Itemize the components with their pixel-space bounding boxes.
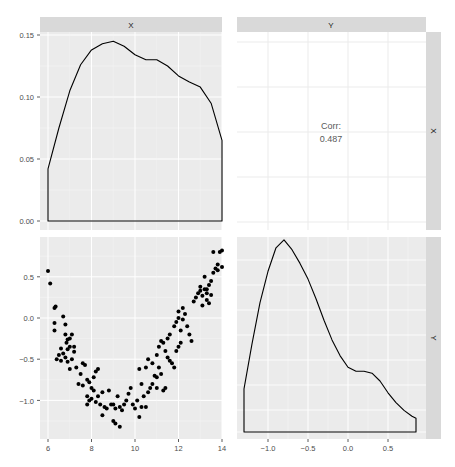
bl-xtick-12: 12 xyxy=(174,444,182,453)
scatter-point xyxy=(118,425,122,429)
scatter-point xyxy=(83,363,87,367)
scatter-point xyxy=(53,321,57,325)
scatter-point xyxy=(68,337,72,341)
scatter-point xyxy=(144,365,148,369)
scatter-point xyxy=(81,384,85,388)
scatter-point xyxy=(207,283,211,287)
scatter-point xyxy=(79,372,83,376)
scatter-point xyxy=(209,293,213,297)
tl-ytick-0.10: 0.10 xyxy=(19,93,34,102)
scatter-point xyxy=(150,382,154,386)
corr-label: Corr: xyxy=(321,121,341,131)
scatter-point xyxy=(98,403,102,407)
scatter-point xyxy=(96,394,100,398)
scatter-point xyxy=(140,405,144,409)
scatter-point xyxy=(194,295,198,299)
scatter-point xyxy=(172,324,176,328)
scatter-point xyxy=(105,407,109,411)
scatter-point xyxy=(94,400,98,404)
scatter-point xyxy=(172,365,176,369)
scatter-point xyxy=(205,287,209,291)
scatter-point xyxy=(159,372,163,376)
bl-ytick--1.0: −1.0 xyxy=(19,397,34,406)
scatter-point xyxy=(200,294,204,298)
scatter-point xyxy=(113,422,117,426)
strip-top-y-label: Y xyxy=(328,21,334,30)
scatter-point xyxy=(133,407,137,411)
scatter-point xyxy=(74,365,78,369)
scatter-point xyxy=(59,359,63,363)
scatter-point xyxy=(155,386,159,390)
scatter-point xyxy=(200,304,204,308)
scatter-point xyxy=(170,361,174,365)
scatter-point xyxy=(113,407,117,411)
scatter-point xyxy=(174,349,178,353)
scatter-point xyxy=(211,250,215,254)
bl-ytick-0.5: 0.5 xyxy=(24,273,34,282)
corr-value: 0.487 xyxy=(320,134,343,144)
scatter-point xyxy=(179,341,183,345)
scatter-point xyxy=(63,333,67,337)
bl-xtick-8: 8 xyxy=(89,444,93,453)
scatter-point xyxy=(181,306,185,310)
scatter-point xyxy=(192,300,196,304)
scatter-point xyxy=(77,382,81,386)
br-xtick-0.5: 0.5 xyxy=(383,444,393,453)
scatter-point xyxy=(155,375,159,379)
scatter-point xyxy=(68,345,72,349)
br-xtick--0.5: −0.5 xyxy=(301,444,316,453)
scatter-point xyxy=(181,318,185,322)
scatter-point xyxy=(129,386,133,390)
scatter-point xyxy=(216,262,220,266)
scatter-point xyxy=(179,328,183,332)
scatter-point xyxy=(198,289,202,293)
scatter-point xyxy=(118,405,122,409)
scatter-point xyxy=(177,309,181,313)
scatter-point xyxy=(124,398,128,402)
scatter-point xyxy=(68,367,72,371)
scatter-point xyxy=(70,357,74,361)
scatter-point xyxy=(207,301,211,305)
bl-xtick-6: 6 xyxy=(46,444,50,453)
scatter-point xyxy=(100,413,104,417)
scatter-point xyxy=(72,345,76,349)
scatter-point xyxy=(92,375,96,379)
scatter-point xyxy=(87,380,91,384)
scatter-point xyxy=(85,403,89,407)
scatter-point xyxy=(150,361,154,365)
scatter-point xyxy=(70,333,74,337)
scatter-point xyxy=(46,269,50,273)
br-xtick-0.0: 0.0 xyxy=(343,444,353,453)
scatter-point xyxy=(61,351,65,355)
scatter-point xyxy=(107,389,111,393)
scatter-point xyxy=(140,382,144,386)
scatter-point xyxy=(65,341,69,345)
scatter-point xyxy=(220,248,224,252)
strip-right-x-label: X xyxy=(429,128,438,134)
scatter-point xyxy=(159,339,163,343)
br-xtick--1.0: −1.0 xyxy=(261,444,276,453)
pairs-plot: X Y X Y Corr: 0.487 0.15 0.10 0.05 0.00 … xyxy=(0,0,455,467)
scatter-point xyxy=(148,386,152,390)
scatter-point xyxy=(63,356,67,360)
right-strips: X Y xyxy=(426,32,441,439)
scatter-point xyxy=(53,328,57,332)
strip-right-y-label: Y xyxy=(429,335,438,341)
scatter-point xyxy=(198,285,202,289)
scatter-point xyxy=(211,271,215,275)
scatter-point xyxy=(177,345,181,349)
scatter-point xyxy=(57,353,61,357)
scatter-point xyxy=(205,291,209,295)
scatter-point xyxy=(48,281,52,285)
strip-top-x-label: X xyxy=(128,21,134,30)
scatter-point xyxy=(100,390,104,394)
bl-ytick--0.5: −0.5 xyxy=(19,355,34,364)
scatter-point xyxy=(144,405,148,409)
tl-ytick-0.15: 0.15 xyxy=(19,31,34,40)
panel-top-left-bg xyxy=(40,32,222,230)
scatter-point xyxy=(157,345,161,349)
scatter-point xyxy=(85,394,89,398)
scatter-point xyxy=(205,298,209,302)
scatter-point xyxy=(187,333,191,337)
scatter-point xyxy=(61,314,65,318)
